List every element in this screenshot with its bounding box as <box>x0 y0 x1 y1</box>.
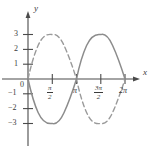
x-tick-label-pi: π <box>73 87 77 95</box>
origin-label: 0 <box>20 81 24 89</box>
y-axis-label: y <box>34 4 38 13</box>
y-tick-label-minus-3: −3 <box>8 119 17 127</box>
y-tick-label-1: 1 <box>14 60 18 68</box>
y-tick-label-minus-1: −1 <box>8 89 17 97</box>
y-tick-label-3: 3 <box>14 30 18 38</box>
x-tick-label-pi-over-2: π 2 <box>47 84 53 101</box>
y-tick-label-2: 2 <box>14 45 18 53</box>
plot-canvas <box>0 0 155 148</box>
y-tick-label-minus-2: −2 <box>8 104 17 112</box>
x-tick-label-2pi: 2π <box>119 87 127 95</box>
x-axis-label: x <box>143 68 147 77</box>
graph-figure: y x 0 3 2 1 −1 −2 −3 π 2 π 3π 2 2π <box>0 0 155 148</box>
x-tick-label-3pi-over-2: 3π 2 <box>94 84 103 101</box>
